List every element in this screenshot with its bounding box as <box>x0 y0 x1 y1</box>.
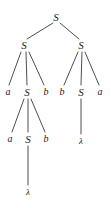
tree-edge <box>64 52 78 85</box>
tree-edge <box>81 52 82 85</box>
tree-edge <box>27 23 53 39</box>
tree-node-terminal-n11: b <box>44 134 49 144</box>
parse-tree-edges <box>0 0 111 208</box>
tree-node-terminal-n8: a <box>98 87 103 97</box>
tree-node-nonterminal-n2: S <box>78 40 84 51</box>
tree-node-terminal-n3: a <box>6 87 11 97</box>
tree-edge <box>85 52 99 85</box>
tree-edge <box>26 52 27 85</box>
tree-node-nonterminal-n1: S <box>21 40 27 51</box>
tree-node-nonterminal-n7: S <box>78 87 84 98</box>
tree-node-lambda-n12: λ <box>79 137 83 146</box>
tree-node-nonterminal-n4: S <box>24 87 30 98</box>
tree-node-terminal-n5: b <box>44 87 49 97</box>
tree-edge <box>31 99 45 132</box>
tree-node-nonterminal-n0: S <box>53 12 59 23</box>
tree-node-lambda-n13: λ <box>26 188 30 197</box>
tree-node-nonterminal-n10: S <box>25 134 31 145</box>
tree-edge <box>12 99 24 132</box>
tree-edge <box>29 52 44 85</box>
tree-node-terminal-n6: b <box>60 87 65 97</box>
tree-node-terminal-n9: a <box>8 134 13 144</box>
parse-tree-figure: SSSaSbbSaaSbλλ <box>0 0 111 208</box>
tree-edge <box>9 52 21 85</box>
tree-edge <box>60 23 79 39</box>
